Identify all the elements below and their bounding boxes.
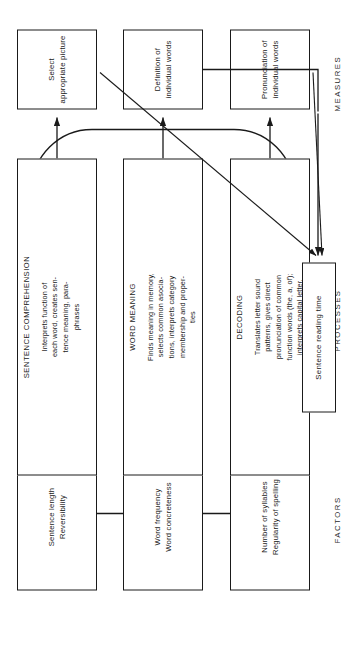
process-title: SENTENCE COMPREHENSION — [22, 255, 33, 377]
process-body-line: each word, creates sen- — [50, 276, 61, 356]
factor-line: Number of syllables — [259, 481, 270, 552]
caption-measures: MEASURES — [333, 55, 342, 111]
outcome-box-sentence-reading-time: Sentence reading time — [302, 262, 336, 412]
factor-line: Reversibility — [57, 494, 68, 538]
caption-factors: FACTORS — [333, 496, 342, 543]
process-body-line: selects common asocia- — [156, 273, 167, 361]
process-body-line: ties — [188, 273, 199, 361]
process-box-decoding: DECODING Translates letter sound pattern… — [230, 158, 310, 475]
measure-line: Definition of — [152, 47, 163, 90]
process-title: WORD MEANING — [128, 283, 139, 351]
process-body-line: Finds meaning in memory, — [146, 273, 157, 361]
factor-line: Word concreteness — [163, 482, 174, 552]
process-body-line: Interprets function of — [40, 276, 51, 356]
measure-line: Select — [46, 58, 57, 81]
outcome-line: Sentence reading time — [313, 295, 324, 379]
process-title: DECODING — [235, 294, 246, 339]
process-body-line: patterns, gives direct — [263, 273, 274, 360]
diagram-screenshot: Sentence length Reversibility Word frequ… — [0, 0, 352, 645]
measure-line: Pronunciation of — [259, 40, 270, 99]
process-body-line: membership and proper- — [178, 273, 189, 361]
measure-box-select-picture: Select appropriate picture — [17, 29, 97, 109]
measure-box-definition: Definition of individual words — [123, 29, 203, 109]
measure-box-pronunciation: Pronunciation of individual words — [230, 29, 310, 109]
process-body-line: pronunciation of common — [274, 273, 285, 360]
process-body: Interprets function of each word, create… — [40, 276, 82, 356]
measure-line: appropriate picture — [57, 35, 68, 103]
process-box-sentence-comprehension: SENTENCE COMPREHENSION Interprets functi… — [17, 158, 97, 475]
process-body-line: phrases — [72, 276, 83, 356]
measure-line: individual words — [270, 40, 281, 98]
factor-line: Regularity of spelling — [270, 479, 281, 555]
process-body-line: tence meaning, para- — [61, 276, 72, 356]
process-body-line: Translates letter sound — [253, 273, 264, 360]
flowchart: Sentence length Reversibility Word frequ… — [0, 0, 352, 645]
process-box-word-meaning: WORD MEANING Finds meaning in memory, se… — [123, 158, 203, 475]
process-body-line: tions, interprets category — [167, 273, 178, 361]
measure-line: individual words — [163, 40, 174, 98]
diagram-stage: Sentence length Reversibility Word frequ… — [0, 0, 352, 645]
process-body: Finds meaning in memory, selects common … — [146, 273, 199, 361]
factor-line: Sentence length — [46, 487, 57, 546]
process-body-line: function words (the, a, of); — [285, 273, 296, 360]
factor-line: Word frequency — [152, 488, 163, 545]
